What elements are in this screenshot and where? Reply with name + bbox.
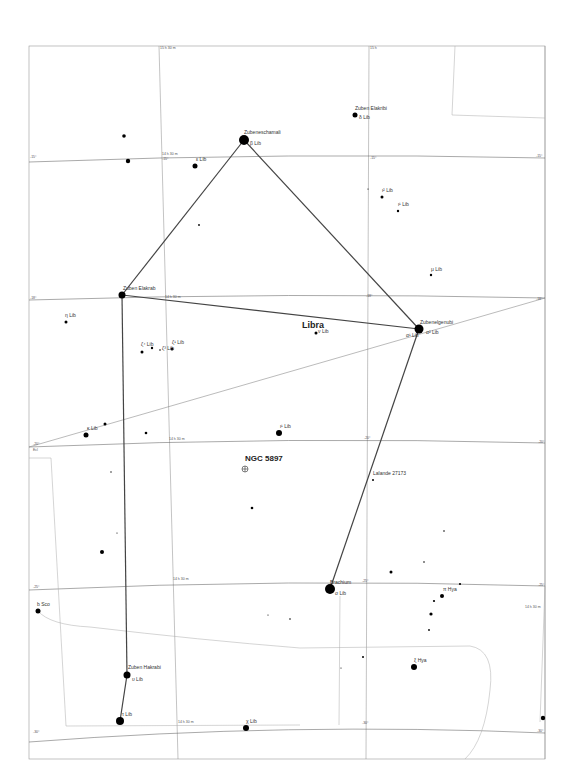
star-icon[interactable] [141, 351, 144, 354]
star-designation-label: α² Lib [426, 330, 439, 335]
ra-line [366, 46, 369, 759]
star-icon[interactable] [353, 113, 358, 118]
dec-line [29, 729, 545, 742]
dec-line [29, 583, 545, 590]
constellation-boundary [452, 46, 545, 118]
dec-label: -18° [30, 297, 36, 301]
star-designation-label: π Hya [443, 587, 457, 592]
stars [36, 113, 546, 732]
dec-label: -30° [537, 730, 543, 734]
star-designation-label: τ Lib [122, 712, 132, 717]
star-designation-label: ζ¹ Lib [172, 340, 184, 345]
dec-line [29, 440, 545, 447]
chart-frame [29, 46, 545, 759]
star-icon[interactable] [243, 725, 249, 731]
star-icon[interactable] [116, 717, 124, 725]
dec-label: -25° [362, 580, 368, 584]
star-icon[interactable] [381, 196, 384, 199]
star-name-label[interactable]: Zuben Elakrab [123, 286, 156, 291]
star-icon[interactable] [440, 594, 444, 598]
star-designation-label: μ Lib [431, 267, 442, 272]
ra-label: 15 h [370, 47, 377, 51]
dec-label: -18° [536, 298, 542, 302]
star-icon[interactable] [145, 432, 148, 435]
star-icon[interactable] [289, 618, 291, 620]
star-icon[interactable] [239, 135, 249, 145]
star-icon[interactable] [390, 571, 393, 574]
star-designation-label: ξ Hya [414, 658, 427, 663]
star-icon[interactable] [198, 224, 200, 226]
star-icon[interactable] [124, 672, 131, 679]
dec-label: -15° [30, 156, 36, 160]
star-designation-label: β Lib [250, 141, 261, 146]
star-icon[interactable] [84, 433, 89, 438]
star-icon[interactable] [459, 583, 461, 585]
ra-label: 14 h 30 m [178, 721, 194, 725]
ngc-label[interactable]: NGC 5897 [245, 454, 283, 463]
star-name-label[interactable]: Zuben Elakribi [355, 106, 387, 111]
star-icon[interactable] [119, 292, 126, 299]
dec-label: -20° [538, 441, 544, 445]
star-designation-label: σ Lib [335, 591, 346, 596]
dec-label: -18° [366, 295, 372, 299]
star-icon[interactable] [372, 479, 374, 481]
star-designation-label: ζ⁴ Lib [141, 342, 153, 347]
star-icon[interactable] [193, 164, 198, 169]
ra-label: 14 h 30 m [165, 296, 181, 300]
star-icon[interactable] [397, 210, 399, 212]
dec-label: -20° [364, 437, 370, 441]
star-designation-label: ι¹ Lib [280, 424, 291, 429]
constellation-lines [120, 140, 419, 721]
star-designation-label: κ Lib [87, 426, 98, 431]
star-icon[interactable] [151, 347, 153, 349]
star-name-label[interactable]: Zubenelgenubi [420, 320, 453, 325]
ecliptic-label: Ecl [33, 449, 38, 453]
star-icon[interactable] [100, 550, 104, 554]
star-name-label[interactable]: Lalande 27173 [373, 471, 406, 476]
star-designation-label: υ Lib [132, 677, 143, 682]
star-icon[interactable] [104, 423, 107, 426]
star-icon[interactable] [251, 507, 254, 510]
dec-line [29, 156, 545, 162]
star-designation-label: ν Lib [318, 329, 329, 334]
star-icon[interactable] [362, 656, 364, 658]
star-icon[interactable] [122, 134, 126, 138]
star-name-label[interactable]: Brachium [330, 580, 351, 585]
dec-label: -15° [370, 157, 376, 161]
ra-label: 14 h 30 m [173, 578, 189, 582]
star-name-label[interactable]: Zuben Hakrabi [128, 665, 161, 670]
star-icon[interactable] [340, 667, 341, 668]
star-icon[interactable] [325, 584, 335, 594]
star-icon[interactable] [110, 471, 111, 472]
star-icon[interactable] [126, 159, 130, 163]
star-icon[interactable] [430, 274, 432, 276]
star-designation-label: ε Lib [196, 157, 206, 162]
star-icon[interactable] [65, 321, 68, 324]
dec-line [29, 295, 545, 300]
star-icon[interactable] [411, 664, 417, 670]
ra-label: 14 h 30 m [169, 438, 185, 442]
star-designation-label: δ Lib [359, 115, 370, 120]
constellation-boundary [339, 596, 340, 725]
star-icon[interactable] [36, 609, 41, 614]
dec-label: -30° [362, 722, 368, 726]
constellation-line [122, 140, 244, 295]
star-icon[interactable] [116, 532, 117, 533]
star-icon[interactable] [159, 349, 161, 351]
star-icon[interactable] [367, 188, 368, 189]
star-designation-label: χ Lib [246, 719, 257, 724]
star-icon[interactable] [429, 612, 432, 615]
star-name-label[interactable]: Zubeneschamali [244, 130, 281, 135]
star-designation-label: η Lib [65, 313, 76, 318]
globular-cluster-icon[interactable] [242, 466, 248, 472]
star-icon[interactable] [443, 530, 445, 532]
star-icon[interactable] [267, 614, 268, 615]
star-icon[interactable] [276, 430, 282, 436]
star-icon[interactable] [541, 716, 545, 720]
star-icon[interactable] [433, 600, 435, 602]
star-icon[interactable] [428, 629, 430, 631]
constellation-boundary [29, 458, 300, 726]
star-icon[interactable] [423, 561, 425, 563]
dec-label: -25° [33, 586, 39, 590]
constellation-line [330, 329, 419, 589]
